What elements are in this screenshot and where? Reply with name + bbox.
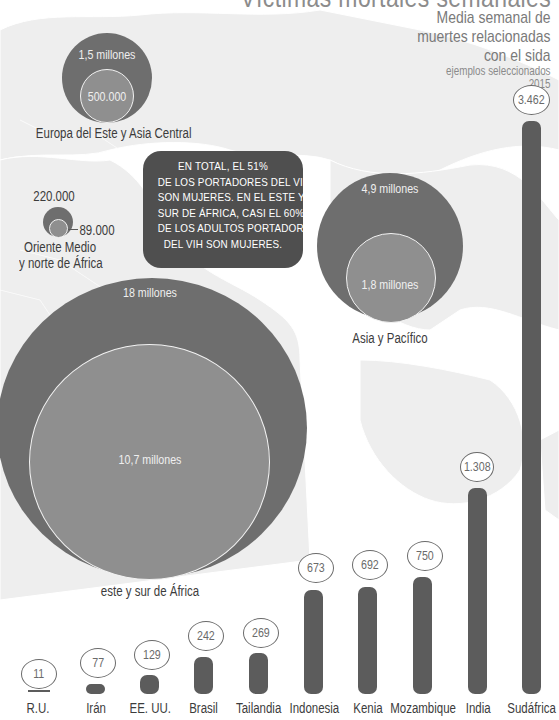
callout-line: En total, el 51% — [158, 159, 289, 175]
value-bubble: 11 — [21, 659, 57, 689]
region-name-line: y norte de África — [19, 255, 101, 271]
bar-rect — [413, 577, 432, 694]
bar-category-label: Sudáfrica — [492, 700, 559, 716]
subtitle-line: Media semanal de — [418, 8, 551, 27]
chart-subtitle: Media semanal de muertes relacionadas co… — [418, 8, 551, 91]
callout-line: de los adultos portadores — [158, 221, 289, 237]
callout-line: del VIH son mujeres. — [158, 237, 289, 253]
bar-rect — [249, 653, 268, 694]
subtitle-line: muertes relacionadas — [418, 27, 551, 46]
bar-rect — [86, 684, 105, 694]
value-bubble: 1.308 — [460, 452, 494, 482]
bar-rect — [28, 690, 50, 692]
value-bubble: 673 — [298, 553, 334, 583]
callout-line: sur de África, casi el 60% — [158, 206, 289, 222]
subtitle-line: con el sida — [418, 46, 551, 65]
callout-box: En total, el 51% de los portadores del V… — [143, 151, 303, 268]
value-bubble: 242 — [188, 621, 224, 651]
region-name: Asia y Pacífico — [349, 330, 431, 346]
bar-rect — [140, 675, 159, 694]
value-bubble: 129 — [134, 640, 170, 670]
region-women-label: 10,7 millones — [109, 452, 191, 467]
region-total-label: 18 millones — [113, 285, 187, 300]
value-bubble: 3.462 — [513, 85, 550, 115]
callout-line: de los portadores del VIH — [158, 175, 289, 191]
region-women-label: 89.000 — [75, 222, 119, 238]
value-bubble: 269 — [243, 618, 279, 648]
region-name-line: Oriente Medio — [19, 239, 101, 255]
region-women-circle-middle-east — [49, 219, 68, 238]
value-bubble: 77 — [80, 648, 116, 678]
callout-line: son mujeres. En el este y el — [158, 190, 289, 206]
bar-rect — [468, 488, 487, 694]
bar-rect — [522, 121, 541, 694]
region-total-label: 220.000 — [21, 188, 87, 204]
value-bubble: 750 — [407, 541, 443, 571]
region-women-label: 500.000 — [78, 89, 135, 104]
bar-rect — [194, 657, 213, 694]
value-bubble: 692 — [352, 550, 388, 580]
region-name: este y sur de África — [93, 583, 208, 599]
bar-rect — [358, 587, 377, 694]
region-women-label: 1,8 millones — [353, 277, 427, 292]
region-total-label: 4,9 millones — [353, 181, 427, 196]
bar-rect — [304, 590, 323, 694]
region-total-label: 1,5 millones — [78, 47, 135, 62]
region-name: Europa del Este y Asia Central — [36, 125, 180, 141]
